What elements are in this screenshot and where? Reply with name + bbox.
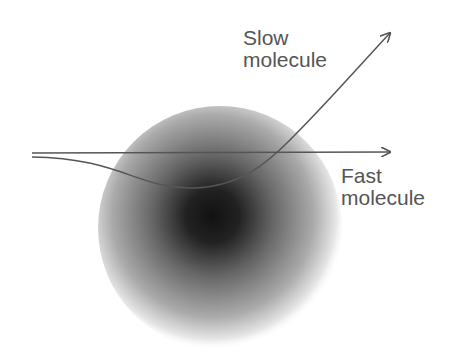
slow-molecule-label: Slow molecule bbox=[243, 27, 327, 71]
slow-label-line2: molecule bbox=[243, 49, 327, 71]
fast-molecule-path bbox=[32, 152, 390, 153]
molecule-field bbox=[98, 106, 342, 350]
fast-label-line1: Fast bbox=[341, 165, 425, 187]
fast-label-line2: molecule bbox=[341, 187, 425, 209]
slow-label-line1: Slow bbox=[243, 27, 327, 49]
fast-molecule-label: Fast molecule bbox=[341, 165, 425, 209]
